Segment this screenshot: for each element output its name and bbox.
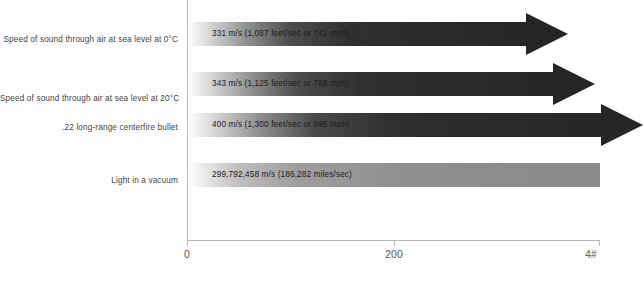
bar-value-label: 331 m/s (1,087 feet/sec or 742 mph): [212, 22, 349, 46]
x-axis-tick-2: [599, 241, 600, 246]
category-label-bullet: .22 long-range centerfire bullet: [0, 123, 178, 133]
category-label-sound-0c: Speed of sound through air at sea level …: [0, 35, 178, 45]
x-tick-label-400: 4#: [585, 248, 615, 260]
bar-arrowhead: [601, 104, 643, 146]
x-axis-tick-0: [187, 241, 188, 246]
bar-arrowhead: [553, 63, 595, 105]
category-label-light: Light in a vacuum: [0, 176, 178, 186]
x-axis-tick-1: [394, 241, 395, 246]
bar-value-label: 400 m/s (1,300 feet/sec or 895 mph): [212, 113, 349, 137]
x-tick-label-0: 0: [167, 248, 207, 260]
bar-arrowhead: [526, 13, 568, 55]
category-label-sound-20c: Speed of sound through air at sea level …: [0, 94, 178, 104]
x-tick-label-200: 200: [374, 248, 414, 260]
bar-value-label: 299,792,458 m/s (186,282 miles/sec): [212, 163, 352, 187]
bar-value-label: 343 m/s (1,125 feet/sec or 768 mph): [212, 72, 349, 96]
